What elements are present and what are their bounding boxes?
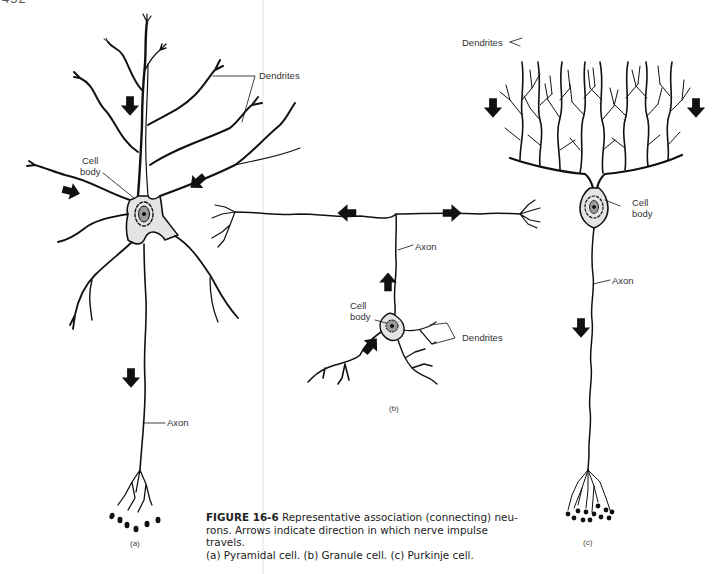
caption-line-1: Representative association (connecting) … [282, 511, 518, 523]
sublabel-a: (a) [130, 539, 140, 548]
figure-id: FIGURE 16-6 [206, 511, 279, 523]
caption-line-2: rons. Arrows indicate direction in which… [206, 524, 526, 549]
arrow-down-icon [572, 318, 590, 338]
arrow-down-icon [121, 96, 139, 116]
label-cell-c: Cell [632, 197, 648, 208]
figure-caption: FIGURE 16-6 Representative association (… [206, 511, 526, 561]
caption-line-3: (a) Pyramidal cell. (b) Granule cell. (c… [206, 549, 526, 562]
sublabel-b: (b) [389, 404, 399, 413]
label-axon-c: Axon [612, 275, 634, 286]
neuron-figure [0, 0, 726, 574]
purkinje-cell [500, 38, 690, 522]
label-cell-b: Cell [350, 300, 366, 311]
label-cell-a: Cell [82, 155, 98, 166]
pyramidal-cell [27, 14, 300, 532]
label-axon-b: Axon [415, 241, 437, 252]
label-body-c: body [632, 208, 653, 219]
granule-cell [212, 200, 540, 384]
sublabel-c: (c) [583, 538, 592, 547]
arrow-left-icon [338, 204, 357, 222]
label-dendrites-c: Dendrites [462, 37, 503, 48]
arrow-down-icon [122, 368, 140, 388]
arrow-left-down-icon [185, 170, 210, 194]
arrow-down-icon [484, 98, 502, 118]
label-body-b: body [350, 311, 371, 322]
arrow-right-icon [60, 181, 82, 202]
arrow-up-right-icon [358, 333, 383, 359]
arrow-right-icon [443, 204, 462, 222]
arrow-down-icon [687, 98, 705, 118]
label-body-a: body [80, 166, 101, 177]
label-dendrites-b: Dendrites [462, 332, 503, 343]
label-dendrites-a: Dendrites [259, 70, 300, 81]
label-axon-a: Axon [167, 417, 189, 428]
